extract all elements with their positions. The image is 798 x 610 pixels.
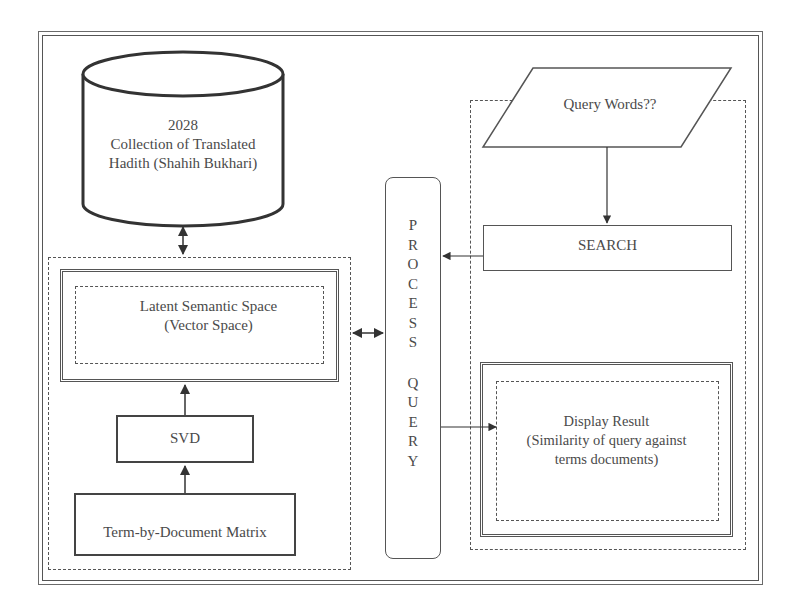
display-result-box: Display Result (Similarity of query agai… bbox=[480, 362, 733, 537]
pq-letter: R bbox=[386, 432, 440, 452]
display-result-line-3: terms documents) bbox=[483, 450, 730, 469]
display-result-line-2: (Similarity of query against bbox=[483, 431, 730, 450]
pq-letter: C bbox=[386, 275, 440, 295]
pq-letter: E bbox=[386, 294, 440, 314]
search-label: SEARCH bbox=[484, 236, 731, 255]
database-line-2: Collection of Translated bbox=[83, 135, 283, 154]
database-label: 2028 Collection of Translated Hadith (Sh… bbox=[83, 116, 283, 173]
display-result-label: Display Result (Similarity of query agai… bbox=[483, 412, 730, 469]
pq-letter: E bbox=[386, 413, 440, 433]
search-box: SEARCH bbox=[483, 225, 732, 271]
pq-letter: R bbox=[386, 236, 440, 256]
display-result-line-1: Display Result bbox=[483, 412, 730, 431]
pq-letter: U bbox=[386, 393, 440, 413]
pq-letter: S bbox=[386, 333, 440, 353]
term-document-matrix-label: Term-by-Document Matrix bbox=[76, 523, 294, 542]
database-line-3: Hadith (Shahih Bukhari) bbox=[83, 154, 283, 173]
latent-space-box: Latent Semantic Space (Vector Space) bbox=[60, 269, 339, 382]
latent-space-line-2: (Vector Space) bbox=[81, 316, 336, 335]
term-document-matrix-box: Term-by-Document Matrix bbox=[74, 493, 296, 556]
process-query-label: P R O C E S S Q U E R Y bbox=[386, 216, 440, 471]
latent-space-line-1: Latent Semantic Space bbox=[81, 297, 336, 316]
svd-box: SVD bbox=[116, 415, 254, 463]
svd-label: SVD bbox=[118, 429, 252, 448]
database-line-1: 2028 bbox=[83, 116, 283, 135]
pq-letter: Y bbox=[386, 452, 440, 472]
pq-letter: Q bbox=[386, 374, 440, 394]
pq-letter: S bbox=[386, 314, 440, 334]
latent-space-label: Latent Semantic Space (Vector Space) bbox=[63, 297, 336, 335]
process-query-box: P R O C E S S Q U E R Y bbox=[385, 177, 441, 559]
query-input-label: Query Words?? bbox=[510, 95, 710, 114]
pq-letter: O bbox=[386, 255, 440, 275]
pq-letter: P bbox=[386, 216, 440, 236]
